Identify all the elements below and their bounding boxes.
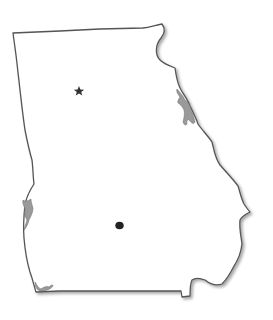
map-container: Georgia [0,0,273,320]
georgia-map [0,0,273,320]
state-outline [13,24,250,297]
dot-icon [115,222,123,230]
